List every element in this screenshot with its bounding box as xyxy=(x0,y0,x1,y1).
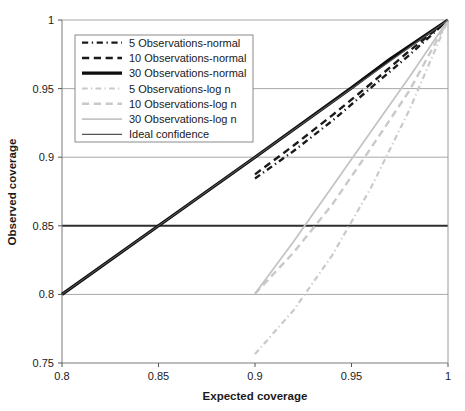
legend-label: 5 Observations-log n xyxy=(129,83,231,95)
legend-label: 10 Observations-normal xyxy=(129,52,246,64)
x-tick-label: 0.9 xyxy=(247,370,262,382)
coverage-chart: 0.750.80.850.90.9510.80.850.90.951 5 Obs… xyxy=(0,0,465,411)
y-tick-label: 0.95 xyxy=(33,83,54,95)
y-tick-label: 0.9 xyxy=(39,151,54,163)
legend-label: 30 Observations-normal xyxy=(129,67,246,79)
chart-legend: 5 Observations-normal10 Observations-nor… xyxy=(75,35,253,142)
y-tick-label: 0.8 xyxy=(39,288,54,300)
x-axis-title: Expected coverage xyxy=(203,390,308,402)
legend-label: 5 Observations-normal xyxy=(129,37,240,49)
chart-canvas: 0.750.80.850.90.9510.80.850.90.951 5 Obs… xyxy=(0,0,465,411)
legend-label: 30 Observations-log n xyxy=(129,113,237,125)
x-tick-label: 0.8 xyxy=(54,370,69,382)
x-tick-label: 1 xyxy=(445,370,451,382)
y-tick-label: 0.75 xyxy=(33,357,54,369)
x-tick-label: 0.85 xyxy=(148,370,169,382)
legend-label: 10 Observations-log n xyxy=(129,98,237,110)
y-tick-label: 0.85 xyxy=(33,220,54,232)
y-tick-label: 1 xyxy=(48,14,54,26)
legend-label: Ideal confidence xyxy=(129,128,209,140)
x-tick-label: 0.95 xyxy=(341,370,362,382)
y-axis-title: Observed coverage xyxy=(6,139,18,246)
